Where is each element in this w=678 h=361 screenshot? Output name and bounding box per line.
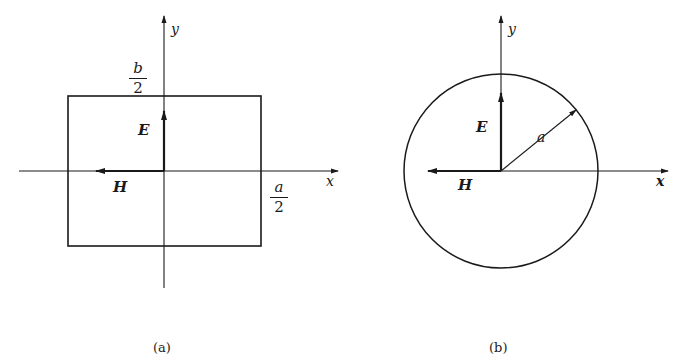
- panel-b-caption: (b): [489, 340, 507, 355]
- diagram-canvas: [0, 0, 678, 361]
- panel-a-caption: (a): [153, 340, 171, 355]
- panel-a-rectangular-waveguide: [19, 16, 338, 288]
- panel-b-x-label: x: [656, 174, 664, 188]
- fraction-numerator: a: [270, 180, 288, 198]
- fraction-denominator: 2: [129, 79, 147, 96]
- panel-a-e-label: E: [138, 123, 149, 138]
- panel-a-x-label: x: [326, 174, 334, 188]
- panel-b-y-label: y: [508, 22, 516, 36]
- panel-b-circular-waveguide: [404, 16, 668, 268]
- panel-b-radius-label: a: [537, 130, 545, 144]
- fraction-denominator: 2: [270, 198, 288, 215]
- panel-b-e-label: E: [476, 120, 487, 135]
- panel-a-h-label: H: [113, 180, 127, 195]
- panel-b-h-label: H: [458, 178, 472, 193]
- panel-a-y-label: y: [171, 22, 179, 36]
- panel-a-a-half-fraction: a 2: [270, 180, 288, 215]
- fraction-numerator: b: [129, 61, 147, 79]
- panel-a-b-half-fraction: b 2: [129, 61, 147, 96]
